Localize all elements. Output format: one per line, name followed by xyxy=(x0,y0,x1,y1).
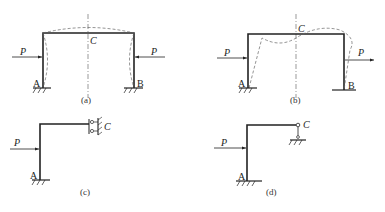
point-label-c: C xyxy=(303,119,310,130)
caption-d: (d) xyxy=(266,187,277,197)
frame-members xyxy=(247,125,296,181)
deformed-beam xyxy=(43,28,134,34)
load-label: P xyxy=(13,137,20,148)
structural-frames-figure: P P A B C (a) P P A B C (b) xyxy=(0,0,385,212)
load-label-left: P xyxy=(223,47,230,58)
point-label-c: C xyxy=(90,35,97,46)
caption-c: (c) xyxy=(80,187,90,197)
support-label-b: B xyxy=(137,78,144,89)
point-label-c: C xyxy=(298,23,305,34)
deformed-shape xyxy=(249,28,352,90)
support-label-b: B xyxy=(348,80,355,91)
load-label: P xyxy=(220,137,227,148)
frame-members xyxy=(43,33,134,88)
support-label-a: A xyxy=(238,171,246,182)
panel-c: P A C (c) xyxy=(10,117,111,197)
caption-b: (b) xyxy=(290,95,301,105)
panel-b: P P A B C (b) xyxy=(217,14,374,105)
frame-members xyxy=(40,124,89,180)
load-label-left: P xyxy=(19,46,26,57)
load-label-right: P xyxy=(357,47,364,58)
panel-a: P P A B C (a) xyxy=(12,14,165,105)
load-label-right: P xyxy=(150,46,157,57)
support-label-a: A xyxy=(30,170,38,181)
panel-d: P A C (d) xyxy=(214,119,310,197)
support-label-a: A xyxy=(238,78,246,89)
caption-a: (a) xyxy=(81,95,91,105)
sliding-support-c xyxy=(89,117,102,135)
point-label-c: C xyxy=(104,121,111,132)
support-label-a: A xyxy=(33,78,41,89)
